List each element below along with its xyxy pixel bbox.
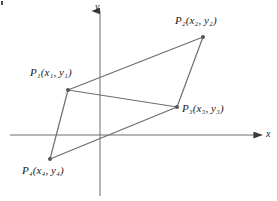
point-label-p4: P₄(x₄, y₄) [22, 165, 64, 176]
point-label-p3: P₃(x₃, y₃) [182, 103, 224, 114]
vertex-marker-p1 [66, 88, 70, 92]
point-label-p2: P₂(x₂, y₂) [175, 15, 217, 26]
vertex-marker-p3 [175, 105, 179, 109]
vertex-marker-p4 [48, 157, 52, 161]
polygon-edge-p2-p3 [177, 37, 203, 107]
vertex-markers-group [48, 35, 205, 161]
coordinate-plane-figure: x y P₁(x₁, y₁) P₂(x₂, y₂) P₃(x₃, y₃) P₄(… [0, 0, 277, 201]
polygon-edge-p3-p4 [50, 107, 177, 159]
polygon-edge-p1-p2 [68, 37, 203, 90]
polygon-edge-p4-p1 [50, 90, 68, 159]
polygon-edge-p1-p3 [68, 90, 177, 107]
quadrilateral-edges-group [50, 37, 203, 159]
x-axis-label: x [266, 129, 270, 139]
point-label-p1: P₁(x₁, y₁) [30, 67, 72, 78]
y-axis-label: y [95, 2, 99, 12]
vertex-marker-p2 [201, 35, 205, 39]
